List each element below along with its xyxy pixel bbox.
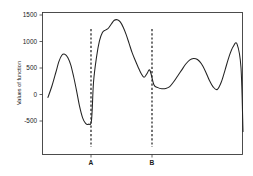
y-tick-label-minus500: -500 bbox=[24, 117, 37, 124]
y-tick-label-1000: 1000 bbox=[23, 38, 38, 45]
line-chart: 1500 1000 500 0 -500 Values of function … bbox=[0, 0, 253, 176]
y-tick-label-0: 0 bbox=[33, 91, 37, 98]
function-curve bbox=[48, 20, 243, 132]
x-tick-label-b: B bbox=[150, 159, 155, 166]
chart-figure: 1500 1000 500 0 -500 Values of function … bbox=[0, 0, 253, 176]
y-tick-label-500: 500 bbox=[26, 64, 37, 71]
y-tick-label-1500: 1500 bbox=[23, 11, 38, 18]
plot-frame bbox=[43, 13, 243, 155]
y-axis-title: Values of function bbox=[16, 61, 22, 105]
x-tick-label-a: A bbox=[89, 159, 94, 166]
